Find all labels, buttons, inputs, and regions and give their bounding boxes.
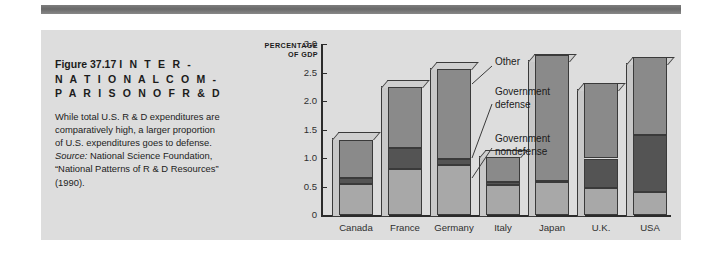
source-text: National Science Foundation,: [87, 150, 212, 161]
caption-line-3: of U.S. expenditures goes to defense.: [55, 137, 212, 148]
source-line-2: “National Patterns of R & D Resources”: [55, 163, 219, 174]
annotation-government-nondefense: Government nondefense: [495, 133, 550, 158]
caption-line-1: While total U.S. R & D expenditures are: [55, 111, 220, 122]
figure-title-line3: P A R I S O N O F R & D: [55, 87, 222, 99]
figure-title-line1: I N T E R -: [119, 58, 193, 70]
chart-plot-area: PERCENTAGE OF GDP 3.0 2.5 2.0 1.5 1.0 0.…: [276, 38, 674, 234]
annotation-government-defense: Government defense: [495, 86, 550, 111]
annotation-other: Other: [495, 56, 520, 69]
caption-line-2: comparatively high, a larger proportion: [55, 124, 215, 135]
figure-title: Figure 37.17 I N T E R - N A T I O N A L…: [55, 57, 247, 101]
figure-number: Figure 37.17: [55, 58, 116, 70]
source-label: Source:: [55, 150, 87, 161]
figure-title-line2: N A T I O N A L C O M -: [55, 73, 218, 85]
figure-caption: Figure 37.17 I N T E R - N A T I O N A L…: [55, 57, 247, 189]
figure-panel: Figure 37.17 I N T E R - N A T I O N A L…: [41, 30, 681, 240]
figure-page: Figure 37.17 I N T E R - N A T I O N A L…: [0, 0, 721, 253]
top-rule-decoration: [41, 5, 681, 14]
source-line-3: (1990).: [55, 177, 85, 188]
figure-description: While total U.S. R & D expenditures are …: [55, 110, 247, 189]
annotation-leader-lines: [276, 38, 674, 234]
